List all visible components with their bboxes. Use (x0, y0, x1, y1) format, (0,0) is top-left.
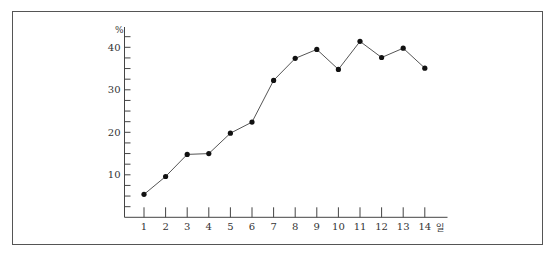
data-series (141, 39, 427, 197)
data-point-marker (422, 66, 427, 71)
x-axis-unit-label: 일 (436, 223, 444, 233)
x-tick-label: 6 (249, 221, 255, 232)
y-axis-unit-label: % (115, 25, 124, 35)
series-line (144, 41, 425, 194)
x-axis: 1234567891011121314 (125, 207, 448, 232)
x-tick-label: 9 (314, 221, 320, 232)
y-tick-label: 40 (108, 42, 121, 53)
x-tick-label: 11 (354, 221, 367, 232)
y-tick-label: 20 (108, 127, 121, 138)
data-point-marker (336, 67, 341, 72)
data-point-marker (206, 151, 211, 156)
x-tick-label: 5 (227, 221, 233, 232)
x-tick-label: 12 (375, 221, 388, 232)
data-point-marker (228, 131, 233, 136)
data-point-marker (249, 120, 254, 125)
y-tick-label: 10 (108, 169, 121, 180)
x-tick-label: 2 (162, 221, 168, 232)
data-point-marker (401, 46, 406, 51)
x-tick-label: 7 (270, 221, 276, 232)
x-tick-label: 3 (184, 221, 190, 232)
x-tick-label: 1 (141, 221, 147, 232)
data-point-marker (293, 56, 298, 61)
data-point-marker (314, 47, 319, 52)
data-point-marker (357, 39, 362, 44)
x-tick-label: 4 (206, 221, 212, 232)
data-point-marker (163, 174, 168, 179)
x-tick-label: 10 (332, 221, 345, 232)
data-point-marker (379, 55, 384, 60)
line-chart: 10203040 1234567891011121314 % 일 (0, 0, 551, 257)
x-tick-label: 14 (418, 221, 431, 232)
data-point-marker (271, 78, 276, 83)
y-axis: 10203040 (108, 27, 131, 217)
y-tick-label: 30 (108, 84, 121, 95)
x-tick-label: 13 (397, 221, 410, 232)
data-point-marker (141, 192, 146, 197)
data-point-marker (185, 152, 190, 157)
x-tick-label: 8 (292, 221, 298, 232)
